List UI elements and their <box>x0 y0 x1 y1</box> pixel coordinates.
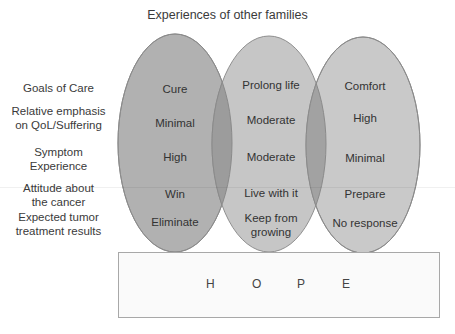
cell-prolong-symptom: Moderate <box>229 150 313 164</box>
cell-prolong-results: Keep from growing <box>240 211 302 239</box>
cell-prolong-emphasis: Moderate <box>229 113 313 127</box>
cell-cure-results: Eliminate <box>135 215 215 229</box>
cell-comfort-goal: Comfort <box>320 79 410 93</box>
hope-letter-p: P <box>297 277 305 291</box>
hope-letter-o: O <box>252 277 261 291</box>
hope-box <box>118 252 440 318</box>
cell-comfort-results: No response <box>320 216 410 230</box>
hope-letter-h: H <box>206 277 215 291</box>
hope-letter-e: E <box>342 277 350 291</box>
cell-prolong-attitude: Live with it <box>229 186 313 200</box>
cell-comfort-symptom: Minimal <box>320 151 410 165</box>
cell-cure-emphasis: Minimal <box>135 116 215 130</box>
cell-cure-attitude: Win <box>135 187 215 201</box>
cell-cure-symptom: High <box>135 150 215 164</box>
cell-comfort-attitude: Prepare <box>320 187 410 201</box>
cell-comfort-emphasis: High <box>320 111 410 125</box>
cell-cure-goal: Cure <box>135 82 215 96</box>
cell-prolong-goal: Prolong life <box>229 78 313 92</box>
